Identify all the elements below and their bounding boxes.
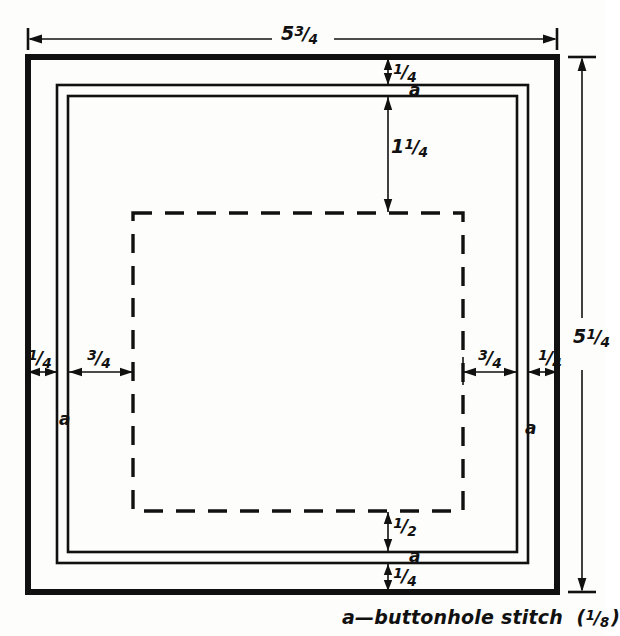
arrowhead-right-border-l: [528, 368, 540, 376]
arrowhead-top-inner-down: [384, 199, 392, 212]
caption-text: buttonhole stitch: [374, 606, 563, 628]
caption-dash: —: [355, 606, 374, 628]
label-top-inner-offset: 11/4: [391, 137, 430, 156]
label-bottom-inner-offset: 1/2: [393, 516, 419, 535]
inner-frame-rect: [68, 96, 517, 552]
caption-key: a: [342, 606, 355, 628]
outer-frame-rect: [28, 57, 557, 592]
middle-frame-rect: [57, 85, 528, 563]
arrowhead-left: [28, 35, 42, 44]
caption-open-paren: (: [577, 606, 586, 628]
stitch-marker-right: a: [525, 420, 536, 437]
arrowhead-right-inner-l: [463, 368, 476, 376]
stitch-marker-left: a: [59, 411, 70, 428]
dashed-center-rect: [133, 213, 463, 511]
dim-top-border: [384, 58, 392, 86]
dim-bottom-inner-offset: [384, 512, 392, 551]
stitch-marker-bottom: a: [409, 548, 420, 565]
arrowhead-left-inner-l: [69, 368, 82, 376]
label-top-border: 1/4: [393, 62, 419, 81]
arrowhead-bottom-border-up: [384, 564, 392, 575]
arrowhead-left-inner-r: [120, 368, 133, 376]
arrowhead-bottom-inner-down: [384, 539, 392, 551]
label-bottom-border: 1/4: [393, 566, 419, 585]
label-right-border: 1/4: [538, 348, 564, 367]
arrowhead-bottom: [578, 578, 587, 592]
arrowhead-top-border-down: [384, 73, 392, 85]
caption-fraction: 1/8: [585, 608, 611, 627]
caption-legend: a—buttonhole stitch (1/8): [342, 608, 620, 627]
arrowhead-right: [543, 35, 557, 44]
arrowhead-top-inner-up: [384, 97, 392, 110]
label-left-inner-offset: 3/4: [87, 348, 113, 367]
arrowhead-bottom-inner-up: [384, 512, 392, 524]
label-overall-height: 51/4: [573, 327, 612, 346]
label-overall-width: 53/4: [281, 24, 320, 43]
arrowhead-top: [578, 57, 587, 71]
caption-close-paren: ): [611, 606, 620, 628]
arrowhead-right-inner-r: [504, 368, 517, 376]
label-left-border: 1/4: [28, 348, 54, 367]
stitch-marker-top: a: [409, 82, 420, 99]
dim-bottom-border: [384, 564, 392, 591]
label-right-inner-offset: 3/4: [478, 348, 504, 367]
